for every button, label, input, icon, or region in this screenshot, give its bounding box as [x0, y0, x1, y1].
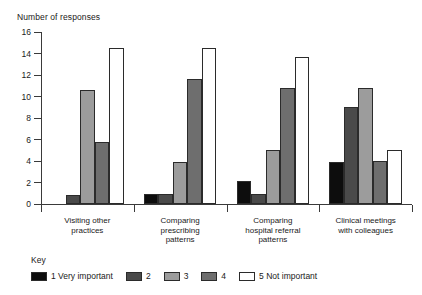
- legend-item: 5 Not important: [239, 271, 317, 281]
- y-axis-tick-label: 16: [14, 28, 31, 37]
- y-axis-tick: [34, 204, 41, 205]
- legend-label: 5 Not important: [259, 271, 317, 281]
- bar: [237, 181, 252, 204]
- bar: [66, 195, 81, 204]
- y-axis-tick-label: 10: [14, 93, 31, 102]
- bar: [266, 150, 281, 204]
- legend-label: 1 Very important: [51, 271, 113, 281]
- legend: 1 Very important2345 Not important: [31, 270, 330, 282]
- bar: [187, 79, 202, 204]
- legend-swatch-icon: [201, 272, 217, 281]
- y-axis-tick-label: 14: [14, 50, 31, 59]
- bar: [344, 107, 359, 204]
- legend-swatch-icon: [31, 272, 47, 281]
- legend-title: Key: [31, 255, 46, 265]
- bar: [144, 194, 159, 204]
- bar: [387, 150, 402, 204]
- bar: [158, 194, 173, 204]
- bar: [295, 57, 310, 204]
- y-axis-tick: [34, 139, 41, 140]
- y-axis-tick: [34, 118, 41, 119]
- y-axis-tick-label: 4: [14, 157, 31, 166]
- legend-label: 4: [221, 271, 226, 281]
- legend-label: 3: [184, 271, 189, 281]
- legend-item: 1 Very important: [31, 271, 113, 281]
- bar: [251, 194, 266, 204]
- y-axis-tick-label: 6: [14, 136, 31, 145]
- y-axis-title: Number of responses: [17, 12, 100, 22]
- x-axis-category-label: Clinical meetingswith colleagues: [311, 216, 420, 235]
- x-axis-group-tick: [319, 205, 320, 212]
- bar: [109, 48, 124, 204]
- y-axis-tick-label: 2: [14, 179, 31, 188]
- category-label-line: with colleagues: [311, 226, 420, 236]
- legend-item: 4: [201, 271, 226, 281]
- y-axis-tick: [34, 161, 41, 162]
- x-axis-group-tick: [41, 205, 42, 212]
- x-axis-group-tick: [134, 205, 135, 212]
- legend-swatch-icon: [164, 272, 180, 281]
- category-label-line: patterns: [219, 235, 328, 245]
- bar: [95, 142, 110, 204]
- bar: [358, 88, 373, 204]
- bar-chart: Number of responses 0246810121416 Visiti…: [0, 0, 422, 295]
- y-axis-tick-label: 0: [14, 200, 31, 209]
- y-axis-tick-label: 12: [14, 71, 31, 80]
- legend-item: 3: [164, 271, 189, 281]
- plot-area: [41, 32, 412, 204]
- bar: [202, 48, 217, 204]
- y-axis-tick: [34, 96, 41, 97]
- category-label-line: Clinical meetings: [311, 216, 420, 226]
- y-axis-tick-label: 8: [14, 114, 31, 123]
- legend-label: 2: [146, 271, 151, 281]
- legend-swatch-icon: [239, 272, 255, 281]
- legend-item: 2: [126, 271, 151, 281]
- bar: [329, 162, 344, 204]
- x-axis-group-tick: [412, 205, 413, 212]
- legend-swatch-icon: [126, 272, 142, 281]
- bar: [280, 88, 295, 204]
- bar: [80, 90, 95, 204]
- y-axis-tick: [34, 53, 41, 54]
- bar: [173, 162, 188, 204]
- bar: [373, 161, 388, 204]
- y-axis-tick: [34, 75, 41, 76]
- y-axis-tick: [34, 182, 41, 183]
- x-axis-group-tick: [227, 205, 228, 212]
- y-axis-tick: [34, 32, 41, 33]
